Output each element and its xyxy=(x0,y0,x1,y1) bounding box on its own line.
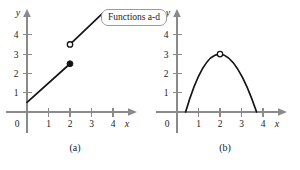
y-tick-label-3-b: 3 xyxy=(164,50,169,60)
y-tick-label-1-b: 1 xyxy=(164,88,169,98)
x-tick-label-1-b: 1 xyxy=(196,119,201,129)
origin-label-a: 0 xyxy=(15,119,20,129)
callout-functions-label: Functions a-d xyxy=(101,9,167,26)
y-tick-label-1-a: 1 xyxy=(14,88,19,98)
parabola-curve-b xyxy=(186,54,257,112)
x-axis-label-a: x xyxy=(124,118,130,129)
lower-segment-a xyxy=(27,64,70,103)
y-tick-label-4-a: 4 xyxy=(14,30,19,40)
x-tick-label-2-b: 2 xyxy=(218,119,223,129)
y-tick-label-3-a: 3 xyxy=(14,50,19,60)
vertex-open-point-marker-b xyxy=(217,51,222,56)
panel-b: 0 1 2 3 4 1 2 3 4 x y (b) xyxy=(150,0,300,170)
panel-b-plot: 0 1 2 3 4 1 2 3 4 x y xyxy=(150,0,300,150)
x-tick-label-1-a: 1 xyxy=(46,119,51,129)
x-axis-arrow-b xyxy=(278,108,287,116)
origin-label-b: 0 xyxy=(165,119,170,129)
y-axis-label-a: y xyxy=(15,7,21,18)
figure-root: 0 1 2 3 4 1 2 3 4 x y (a) xyxy=(0,0,300,170)
y-tick-label-2-b: 2 xyxy=(164,69,169,79)
panel-caption-a: (a) xyxy=(0,142,150,154)
x-tick-label-3-a: 3 xyxy=(89,119,94,129)
x-axis-label-b: x xyxy=(274,118,280,129)
y-tick-label-2-a: 2 xyxy=(14,69,19,79)
upper-segment-a xyxy=(70,13,103,45)
closed-point-marker-a xyxy=(67,61,73,67)
x-tick-label-3-b: 3 xyxy=(239,119,244,129)
x-axis-arrow-a xyxy=(128,108,137,116)
y-axis-arrow-a xyxy=(23,9,31,17)
y-tick-label-4-b: 4 xyxy=(164,30,169,40)
x-tick-label-4-a: 4 xyxy=(111,119,116,129)
open-point-marker-a xyxy=(67,42,72,47)
x-tick-label-4-b: 4 xyxy=(261,119,266,129)
panel-caption-b: (b) xyxy=(150,142,300,154)
y-axis-arrow-b xyxy=(173,9,181,17)
x-tick-label-2-a: 2 xyxy=(68,119,73,129)
